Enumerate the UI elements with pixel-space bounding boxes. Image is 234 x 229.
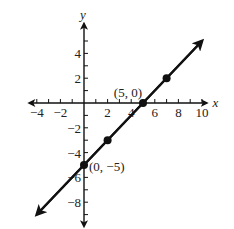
line-arrow-lower [37, 41, 202, 215]
annotation-x-intercept: (5, 0) [114, 85, 142, 100]
data-point [80, 161, 88, 169]
data-point [163, 74, 171, 82]
y-tick-label: −4 [67, 146, 81, 161]
x-tick-label: 8 [175, 105, 182, 120]
y-tick-label: −8 [67, 195, 81, 210]
coordinate-plane: xy−4−224681042−2−4−6−8 (5, 0)(0, −5) [0, 0, 234, 229]
y-tick-label: −6 [67, 170, 81, 185]
x-axis-label: x [212, 95, 219, 110]
x-tick-label: −4 [30, 105, 44, 120]
y-tick-label: 2 [75, 71, 82, 86]
x-tick-label: −2 [53, 105, 67, 120]
y-axis-label: y [78, 7, 86, 22]
x-tick-label: 10 [196, 105, 209, 120]
tick-labels: xy−4−224681042−2−4−6−8 [30, 7, 219, 211]
line-series [37, 41, 202, 215]
point-annotations: (5, 0)(0, −5) [89, 85, 142, 174]
y-tick-label: 4 [75, 46, 82, 61]
data-point [139, 99, 147, 107]
data-point [104, 136, 112, 144]
x-tick-label: 2 [104, 105, 111, 120]
x-tick-label: 6 [152, 105, 159, 120]
annotation-y-intercept: (0, −5) [89, 159, 125, 174]
y-tick-label: −2 [67, 121, 81, 136]
